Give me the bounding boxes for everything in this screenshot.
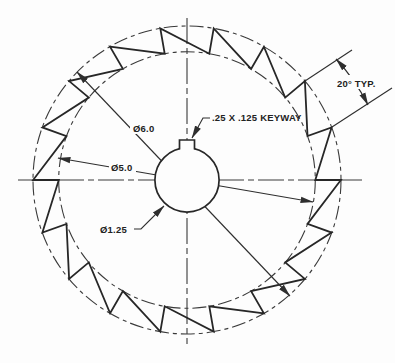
drawing-sheet: Ø6.0 Ø5.0 Ø1.25 .25 X .125 KEYWAY 20° TY… (0, 0, 395, 363)
keyway-note-label: .25 X .125 KEYWAY (212, 112, 302, 123)
outer-diameter-label: Ø6.0 (133, 123, 154, 134)
root-diameter-label: Ø5.0 (111, 162, 132, 173)
engineering-drawing-canvas: Ø6.0 Ø5.0 Ø1.25 .25 X .125 KEYWAY 20° TY… (0, 0, 395, 363)
keyway-leader-line (192, 118, 211, 138)
bore-circle (155, 148, 219, 212)
keyway-notch (180, 140, 195, 150)
bore-diameter-label: Ø1.25 (100, 224, 127, 235)
bore-leader-line (133, 206, 164, 229)
tooth-angle-label: 20° TYP. (337, 78, 376, 89)
